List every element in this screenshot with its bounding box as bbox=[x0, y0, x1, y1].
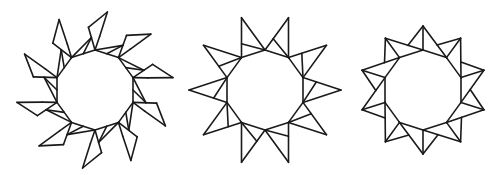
spike-edge bbox=[189, 78, 227, 90]
spike-edge bbox=[303, 102, 327, 134]
decagon-edge bbox=[400, 50, 424, 58]
figure-ten-point-star-radial-triangles bbox=[362, 26, 484, 154]
kite-edge bbox=[130, 34, 151, 49]
decagon-edge bbox=[289, 58, 304, 78]
cross-edge bbox=[461, 117, 462, 142]
spike-edge bbox=[423, 130, 461, 142]
spike-edge bbox=[303, 45, 327, 77]
figure-pinwheel-kite-star bbox=[17, 12, 173, 168]
spike-edge bbox=[204, 45, 242, 57]
spike-edge bbox=[265, 18, 289, 50]
figure-ten-point-star-split-spikes bbox=[189, 18, 341, 163]
spike-edge bbox=[423, 26, 447, 58]
kite-edge bbox=[53, 20, 59, 44]
decagon-edge bbox=[242, 50, 266, 58]
cross-edge bbox=[461, 62, 484, 70]
spike-edge bbox=[362, 58, 399, 71]
spike-edge bbox=[204, 45, 228, 77]
spike-edge bbox=[400, 122, 424, 154]
kite-edge bbox=[39, 131, 60, 146]
kite-edge bbox=[59, 20, 67, 44]
decagon-edge bbox=[265, 122, 289, 130]
cross-edge bbox=[362, 110, 385, 118]
decagon-edge bbox=[423, 122, 447, 130]
decagon-edge bbox=[227, 102, 242, 122]
brace-edge bbox=[133, 78, 146, 103]
spike-inner-line bbox=[227, 102, 228, 126]
spike-edge bbox=[189, 90, 227, 102]
kite-edge bbox=[153, 64, 173, 77]
kite-edge bbox=[90, 130, 95, 144]
spike-inner-line bbox=[302, 53, 303, 77]
geometric-star-figures bbox=[0, 0, 498, 175]
kite-edge bbox=[131, 137, 137, 161]
kite-edge bbox=[123, 136, 131, 160]
spike-edge bbox=[303, 78, 341, 90]
cross-edge bbox=[408, 26, 423, 45]
kite-edge bbox=[39, 145, 63, 146]
kite-edge bbox=[45, 69, 57, 78]
spike-edge bbox=[204, 102, 228, 134]
cross-edge bbox=[385, 38, 386, 63]
spike-edge bbox=[461, 70, 484, 102]
brace-edge bbox=[44, 77, 57, 102]
kite-edge bbox=[127, 34, 151, 35]
spike-edge bbox=[242, 130, 266, 162]
kite-edge bbox=[133, 102, 145, 111]
kite-edge bbox=[95, 36, 100, 50]
spike-edge bbox=[289, 45, 327, 57]
kite-edge bbox=[17, 102, 37, 115]
cross-edge bbox=[423, 135, 438, 154]
decagon-edge bbox=[385, 102, 400, 122]
spike-edge bbox=[385, 38, 423, 50]
spike-edge bbox=[204, 122, 242, 134]
spike-edge bbox=[447, 110, 484, 123]
spike-edge bbox=[303, 90, 341, 102]
spike-edge bbox=[289, 122, 327, 134]
decagon-edge bbox=[447, 58, 462, 78]
spike-edge bbox=[362, 78, 385, 110]
